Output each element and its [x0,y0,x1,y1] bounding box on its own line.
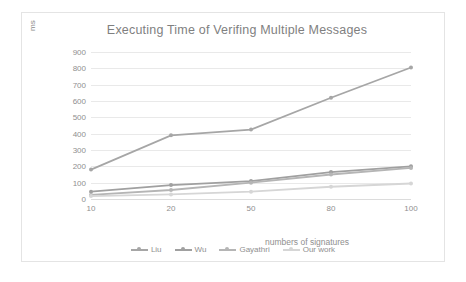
legend-swatch-icon [219,246,236,253]
legend-swatch-icon [175,246,192,253]
data-point [249,181,253,185]
legend-label: Gayathri [239,245,269,254]
y-tick-label: 200 [73,162,86,171]
legend-label: Our work [303,245,335,254]
x-tick-label: 80 [327,204,336,213]
data-point [169,188,173,192]
data-point [329,185,333,189]
y-tick-label: 0 [82,195,86,204]
data-point [409,181,413,185]
y-tick-label: 400 [73,129,86,138]
x-tick-label: 10 [87,204,96,213]
legend-label: Liu [151,245,162,254]
data-point [169,192,173,196]
data-point [409,166,413,170]
chart-container: Executing Time of Verifing Multiple Mess… [21,12,445,262]
y-tick-label: 900 [73,48,86,57]
y-tick-label: 700 [73,80,86,89]
x-tick-label: 20 [167,204,176,213]
data-point [249,128,253,132]
y-tick-label: 800 [73,64,86,73]
data-point [409,66,413,70]
chart-legend: LiuWuGayathriOur work [22,245,444,254]
series-line [91,166,411,191]
y-tick-label: 300 [73,146,86,155]
y-tick-label: 600 [73,97,86,106]
x-tick-label: 100 [404,204,417,213]
data-point [329,173,333,177]
legend-item[interactable]: Our work [283,245,335,254]
y-tick-label: 500 [73,113,86,122]
data-point [169,183,173,187]
y-axis-title: ms [28,20,37,31]
plot-area: 0100200300400500600700800900 10205080100 [91,52,411,199]
legend-item[interactable]: Gayathri [219,245,269,254]
data-point [89,194,93,198]
legend-item[interactable]: Wu [175,245,207,254]
legend-item[interactable]: Liu [131,245,162,254]
y-tick-label: 100 [73,178,86,187]
data-point [89,168,93,172]
x-tick-label: 50 [247,204,256,213]
series-line [91,68,411,170]
series-lines [91,52,411,199]
data-point [249,190,253,194]
data-point [169,133,173,137]
legend-label: Wu [195,245,207,254]
legend-swatch-icon [131,246,148,253]
data-point [329,96,333,100]
gridline [91,199,411,200]
legend-swatch-icon [283,246,300,253]
chart-title: Executing Time of Verifing Multiple Mess… [82,23,392,37]
